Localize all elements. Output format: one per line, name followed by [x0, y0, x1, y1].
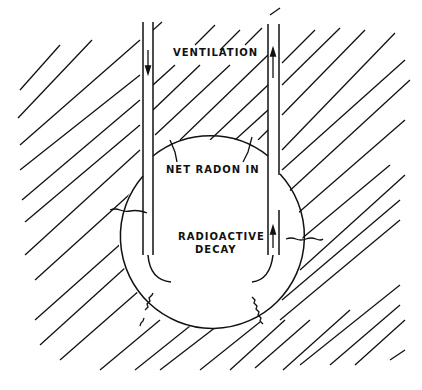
radon-diagram: [0, 0, 422, 390]
decay-label: DECAY: [195, 244, 237, 255]
radioactive-label: RADIOACTIVE: [178, 231, 265, 242]
radon-emanation-arrows: [110, 209, 323, 326]
net-radon-in-label: NET RADON IN: [166, 164, 260, 175]
ventilation-label: VENTILATION: [173, 47, 258, 58]
cavity-flow-lines: [148, 255, 273, 282]
rock-hatching: [18, 8, 410, 370]
shaft-hatching: [153, 22, 268, 140]
